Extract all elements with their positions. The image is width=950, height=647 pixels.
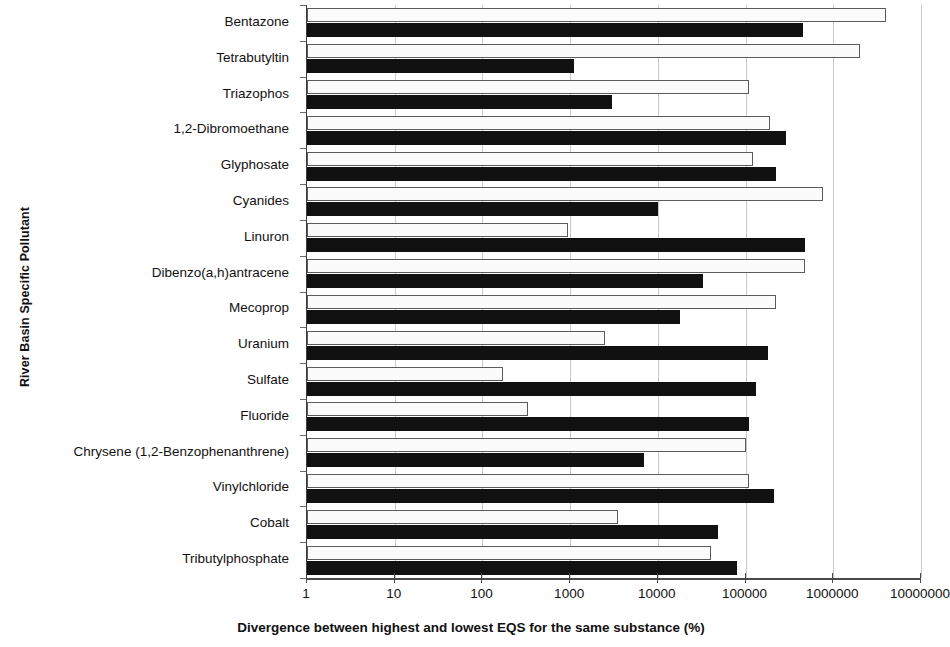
bar-black-14 [307, 525, 718, 539]
category-label-3: 1,2-Dibromoethane [173, 122, 289, 136]
y-axis-tick [300, 363, 306, 364]
category-label-15: Tributylphosphate [182, 552, 289, 566]
bar-black-4 [307, 167, 776, 181]
bar-white-1 [307, 44, 860, 58]
bar-black-12 [307, 453, 644, 467]
bar-white-0 [307, 8, 886, 22]
x-axis-tick [832, 573, 833, 583]
y-axis-tick [300, 148, 306, 149]
x-axis-line [306, 578, 921, 580]
bar-black-3 [307, 131, 786, 145]
bar-black-5 [307, 202, 658, 216]
bar-black-0 [307, 23, 803, 37]
x-axis-tick-label: 10000000 [890, 586, 950, 601]
bar-black-13 [307, 489, 774, 503]
y-axis-tick [300, 292, 306, 293]
y-axis-tick [300, 5, 306, 6]
bar-black-8 [307, 310, 680, 324]
bar-black-15 [307, 561, 737, 575]
bar-black-6 [307, 238, 805, 252]
x-axis-title: Divergence between highest and lowest EQ… [0, 620, 942, 635]
x-axis-tick [394, 573, 395, 583]
category-label-4: Glyphosate [221, 158, 289, 172]
bar-white-4 [307, 152, 753, 166]
y-axis-tick [300, 399, 306, 400]
y-axis-tick [300, 578, 306, 579]
x-axis-tick [657, 573, 658, 583]
category-label-11: Fluoride [240, 409, 289, 423]
x-axis-tick [745, 573, 746, 583]
gridline [833, 5, 834, 578]
bar-white-2 [307, 80, 749, 94]
category-axis-labels: BentazoneTetrabutyltinTriazophos1,2-Dibr… [0, 5, 298, 578]
category-label-9: Uranium [238, 337, 289, 351]
x-axis-tick-label: 1000000 [806, 586, 859, 601]
bar-black-1 [307, 59, 574, 73]
x-axis-tick [481, 573, 482, 583]
y-axis-tick [300, 435, 306, 436]
x-axis-tick-label: 1000 [554, 586, 584, 601]
bar-white-15 [307, 546, 711, 560]
x-axis-tick [920, 573, 921, 583]
category-label-13: Vinylchloride [213, 480, 289, 494]
category-label-6: Linuron [244, 230, 289, 244]
y-axis-tick [300, 112, 306, 113]
category-label-5: Cyanides [233, 194, 289, 208]
y-axis-tick [300, 506, 306, 507]
x-axis-tick-label: 10 [386, 586, 401, 601]
category-label-10: Sulfate [247, 373, 289, 387]
bar-white-5 [307, 187, 823, 201]
category-label-2: Triazophos [223, 87, 289, 101]
bar-black-7 [307, 274, 703, 288]
category-label-14: Cobalt [250, 516, 289, 530]
bar-white-13 [307, 474, 749, 488]
y-axis-tick [300, 41, 306, 42]
category-label-12: Chrysene (1,2-Benzophenanthrene) [74, 445, 289, 459]
y-axis-tick [300, 471, 306, 472]
y-axis-tick [300, 77, 306, 78]
x-axis-tick-label: 1 [302, 586, 310, 601]
bar-white-11 [307, 402, 528, 416]
bar-white-10 [307, 367, 503, 381]
x-axis-tick-label: 100 [470, 586, 493, 601]
bar-white-7 [307, 259, 805, 273]
y-axis-tick [300, 256, 306, 257]
bar-white-14 [307, 510, 618, 524]
plot-area [306, 5, 921, 578]
bar-white-6 [307, 223, 568, 237]
y-axis-tick [300, 327, 306, 328]
bar-black-9 [307, 346, 768, 360]
x-axis-tick-label: 10000 [638, 586, 676, 601]
bar-black-11 [307, 417, 749, 431]
bar-black-10 [307, 382, 756, 396]
bar-white-12 [307, 438, 746, 452]
y-axis-tick [300, 184, 306, 185]
bar-white-8 [307, 295, 776, 309]
category-label-1: Tetrabutyltin [216, 51, 289, 65]
bar-white-9 [307, 331, 605, 345]
category-label-7: Dibenzo(a,h)antracene [152, 266, 289, 280]
bar-black-2 [307, 95, 612, 109]
category-label-0: Bentazone [224, 15, 289, 29]
x-axis-tick [306, 573, 307, 583]
gridline [921, 5, 922, 578]
x-axis-tick [569, 573, 570, 583]
x-axis-tick-label: 100000 [722, 586, 767, 601]
category-label-8: Mecoprop [229, 301, 289, 315]
bar-white-3 [307, 116, 770, 130]
y-axis-tick [300, 220, 306, 221]
y-axis-tick [300, 542, 306, 543]
